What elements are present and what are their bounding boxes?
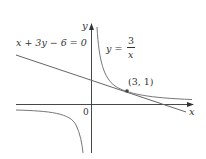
curve-label-lhs: y = (106, 44, 122, 54)
curve-label-denominator: x (128, 50, 133, 60)
tangent-point (125, 89, 129, 93)
tangent-line (16, 55, 186, 112)
diagram-canvas (0, 0, 206, 159)
line-equation-label: x + 3y − 6 = 0 (16, 38, 87, 48)
curve-label-numerator: 3 (128, 36, 134, 46)
point-label: (3, 1) (128, 77, 154, 87)
fraction-bar (127, 47, 135, 48)
hyperbola-left-branch (16, 110, 83, 153)
y-axis-arrow-icon (89, 23, 94, 30)
hyperbola-right-branch (97, 27, 192, 100)
y-axis-label: y (82, 21, 88, 31)
x-axis-label: x (189, 107, 195, 117)
origin-label: 0 (83, 108, 89, 117)
